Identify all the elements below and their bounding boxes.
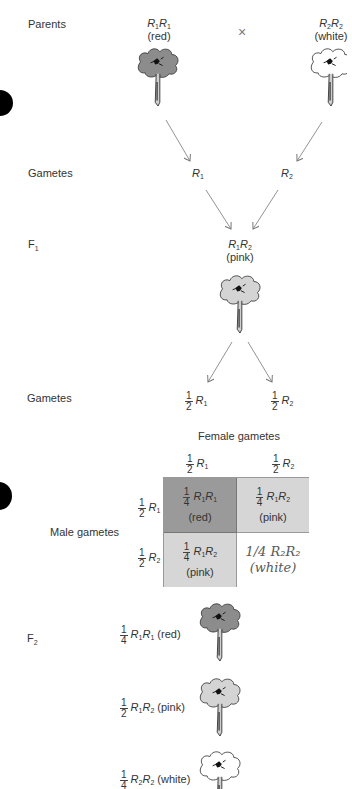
punnett-cell-r1r2: 14R1R2 (pink) bbox=[237, 478, 309, 533]
red-flower-icon bbox=[200, 604, 240, 661]
parent-red: R1R1 (red) bbox=[138, 17, 180, 42]
f2-sub: 2 bbox=[34, 639, 38, 646]
male-gametes-title: Male gametes bbox=[50, 526, 119, 538]
phenotype: (red) bbox=[188, 511, 211, 523]
red-flower-icon bbox=[138, 49, 178, 106]
row-label-parents: Parents bbox=[28, 18, 66, 30]
punnett-cell-r1r2: 14R1R2 (pink) bbox=[164, 533, 237, 587]
row-label-gametes: Gametes bbox=[28, 167, 73, 179]
f2-white-ratio: 14R2R2 (white) bbox=[120, 770, 190, 789]
f2-red-ratio: 14R1R1 (red) bbox=[120, 625, 181, 646]
arrow bbox=[206, 190, 231, 229]
arrow bbox=[253, 190, 278, 229]
f2-pink-ratio: 12R1R2 (pink) bbox=[120, 698, 185, 719]
female-gamete-r1: 12R1 bbox=[186, 454, 208, 475]
punnett-cell-r2r2-handwritten: 1/4 R₂R₂ (white) bbox=[237, 533, 309, 587]
white-flower-icon bbox=[311, 49, 347, 106]
phenotype: (red) bbox=[138, 30, 180, 42]
gamete-r1: R1 bbox=[192, 167, 204, 180]
gamete-half-r2: 12R2 bbox=[271, 391, 293, 412]
genotype: R1R1 bbox=[138, 17, 180, 30]
arrow bbox=[297, 122, 322, 161]
row-label-f2: F2 bbox=[27, 632, 38, 646]
parent-white: R2R2 (white) bbox=[310, 17, 352, 42]
female-gametes-title: Female gametes bbox=[198, 430, 280, 442]
pink-flower-icon bbox=[220, 276, 260, 333]
gamete-half-r1: 12R1 bbox=[185, 391, 207, 412]
male-gamete-r2: 12R2 bbox=[138, 548, 160, 569]
white-flower-icon bbox=[200, 752, 240, 789]
phenotype: (pink) bbox=[218, 251, 262, 263]
gamete-r2: R2 bbox=[281, 167, 293, 180]
phenotype: (white) bbox=[310, 30, 352, 42]
genotype: R2R2 bbox=[310, 17, 352, 30]
arrow bbox=[248, 342, 272, 382]
female-gamete-r2: 12R2 bbox=[272, 454, 294, 475]
row-label-f1: F1 bbox=[28, 238, 39, 252]
punnett-square: 14R1R1 (red) 14R1R2 (pink) 14R1R2 (pink)… bbox=[163, 477, 309, 587]
row-label-gametes-2: Gametes bbox=[27, 392, 72, 404]
handwritten-phenotype: (white) bbox=[250, 560, 297, 576]
f2-text: F bbox=[27, 632, 34, 644]
genotype: R1R2 bbox=[218, 238, 262, 251]
phenotype: (pink) bbox=[186, 566, 214, 578]
f1-offspring: R1R2 (pink) bbox=[218, 238, 262, 263]
f1-text: F bbox=[28, 238, 35, 250]
phenotype: (pink) bbox=[259, 511, 287, 523]
pink-flower-icon bbox=[200, 679, 240, 736]
handwritten-genotype: 1/4 R₂R₂ bbox=[245, 544, 300, 560]
punnett-cell-r1r1: 14R1R1 (red) bbox=[164, 478, 237, 533]
f1-sub: 1 bbox=[35, 245, 39, 252]
arrow bbox=[208, 342, 232, 382]
cross-symbol: × bbox=[238, 24, 246, 40]
male-gamete-r1: 12R1 bbox=[138, 498, 160, 519]
arrow bbox=[166, 120, 190, 161]
